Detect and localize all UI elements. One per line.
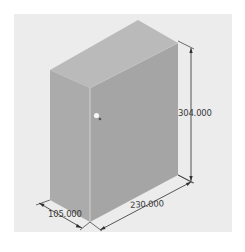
height-dimension-label: 304.000 <box>178 108 212 118</box>
depth-dimension-label: 105.000 <box>48 209 82 219</box>
width-dimension-label: 230.000 <box>130 198 164 210</box>
model-viewport: 304.000 230.000 105.000 <box>0 0 245 252</box>
cabinet-side-face <box>50 70 90 222</box>
cabinet-drawing <box>0 0 245 252</box>
